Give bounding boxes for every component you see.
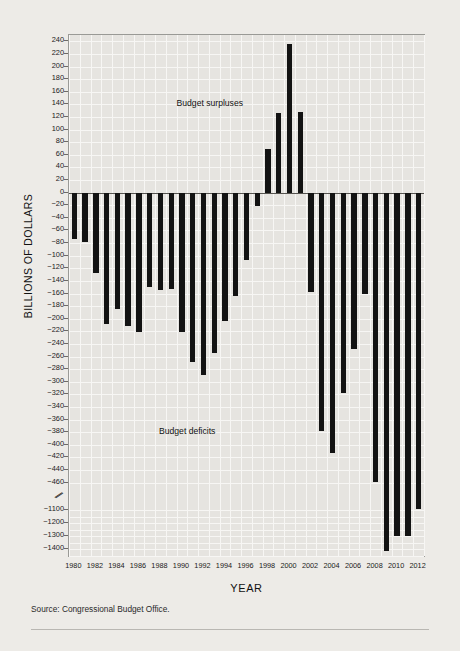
gridline-horizontal bbox=[69, 470, 424, 471]
x-tick-label: 1990 bbox=[173, 561, 189, 570]
x-tick-label: 2006 bbox=[345, 561, 361, 570]
y-tick-label: 100 bbox=[52, 125, 64, 133]
gridline-horizontal bbox=[69, 445, 424, 446]
x-tick-label: 1982 bbox=[87, 561, 103, 570]
y-tick-label: −180 bbox=[47, 301, 64, 309]
gridline-horizontal bbox=[69, 523, 424, 524]
gridline-vertical bbox=[241, 35, 242, 556]
y-tick-label: −260 bbox=[47, 352, 64, 360]
gridline-vertical bbox=[187, 35, 188, 556]
gridline-horizontal bbox=[69, 510, 424, 511]
bar-1990 bbox=[179, 193, 184, 332]
x-tick-label: 2002 bbox=[302, 561, 318, 570]
y-tick-label: −400 bbox=[47, 440, 64, 448]
budget-deficit-chart: 240220200180160140120100806040200−20−40−… bbox=[0, 0, 460, 651]
bar-2011 bbox=[405, 193, 410, 537]
bar-2000 bbox=[287, 44, 292, 193]
y-axis-title: BILLIONS OF DOLLARS bbox=[22, 146, 34, 366]
bar-1999 bbox=[276, 113, 281, 192]
gridline-vertical bbox=[101, 35, 102, 556]
x-tick-label: 1984 bbox=[108, 561, 124, 570]
gridline-horizontal bbox=[69, 306, 424, 307]
bar-1994 bbox=[222, 193, 227, 321]
y-tick-label: 160 bbox=[52, 87, 64, 95]
y-tick-label: −80 bbox=[51, 238, 64, 246]
gridline-horizontal bbox=[69, 394, 424, 395]
annotation-budget-deficits: Budget deficits bbox=[159, 426, 215, 436]
gridline-horizontal bbox=[69, 130, 424, 131]
bar-2009 bbox=[384, 193, 389, 552]
gridline-vertical bbox=[284, 35, 285, 556]
gridline-vertical bbox=[220, 35, 221, 556]
gridline-horizontal bbox=[69, 549, 424, 550]
gridline-horizontal bbox=[69, 117, 424, 118]
gridline-horizontal bbox=[69, 357, 424, 358]
bar-2001 bbox=[298, 112, 303, 193]
y-tick-label: −40 bbox=[51, 213, 64, 221]
gridline-vertical bbox=[230, 35, 231, 556]
y-tick-label: −280 bbox=[47, 364, 64, 372]
x-tick-label: 1996 bbox=[237, 561, 253, 570]
y-tick-label: 180 bbox=[52, 74, 64, 82]
gridline-horizontal bbox=[69, 142, 424, 143]
gridline-horizontal bbox=[69, 294, 424, 295]
y-tick-label: 120 bbox=[52, 112, 64, 120]
gridline-horizontal bbox=[69, 92, 424, 93]
y-tick-label: 40 bbox=[56, 162, 64, 170]
gridline-horizontal bbox=[69, 319, 424, 320]
gridline-horizontal bbox=[69, 155, 424, 156]
gridline-horizontal bbox=[69, 54, 424, 55]
y-tick-label: −140 bbox=[47, 276, 64, 284]
bar-2008 bbox=[373, 193, 378, 482]
gridline-horizontal bbox=[69, 556, 424, 557]
gridline-horizontal bbox=[69, 344, 424, 345]
gridline-horizontal bbox=[69, 457, 424, 458]
gridline-vertical bbox=[252, 35, 253, 556]
gridline-vertical bbox=[263, 35, 264, 556]
gridline-vertical bbox=[413, 35, 414, 556]
x-tick-label: 1998 bbox=[259, 561, 275, 570]
x-tick-label: 2008 bbox=[366, 561, 382, 570]
bar-1992 bbox=[201, 193, 206, 376]
bar-2006 bbox=[351, 193, 356, 349]
y-tick-label: −380 bbox=[47, 427, 64, 435]
bar-1997 bbox=[255, 193, 260, 207]
gridline-vertical bbox=[306, 35, 307, 556]
plot-area: Budget surpluses Budget deficits bbox=[68, 34, 425, 557]
y-tick-label: −60 bbox=[51, 225, 64, 233]
annotation-budget-surpluses: Budget surpluses bbox=[177, 98, 243, 108]
gridline-vertical bbox=[359, 35, 360, 556]
bar-2012 bbox=[416, 193, 421, 509]
y-tick-label: −340 bbox=[47, 402, 64, 410]
y-tick-label: −300 bbox=[47, 377, 64, 385]
bar-1998 bbox=[265, 149, 270, 193]
bar-1995 bbox=[233, 193, 238, 296]
bar-1982 bbox=[93, 193, 98, 274]
gridline-horizontal bbox=[69, 79, 424, 80]
bar-1980 bbox=[72, 193, 77, 240]
gridline-vertical bbox=[349, 35, 350, 556]
x-tick-label: 2012 bbox=[409, 561, 425, 570]
y-tick-label: −1100 bbox=[44, 505, 64, 513]
y-tick-label: −440 bbox=[47, 465, 64, 473]
gridline-horizontal bbox=[69, 281, 424, 282]
gridline-horizontal bbox=[69, 483, 424, 484]
gridline-vertical bbox=[177, 35, 178, 556]
bar-1993 bbox=[212, 193, 217, 354]
y-tick-label: 140 bbox=[52, 99, 64, 107]
page-background: 240220200180160140120100806040200−20−40−… bbox=[0, 0, 460, 651]
bar-1996 bbox=[244, 193, 249, 260]
gridline-horizontal bbox=[69, 543, 424, 544]
gridline-vertical bbox=[112, 35, 113, 556]
gridline-vertical bbox=[316, 35, 317, 556]
gridline-horizontal bbox=[69, 67, 424, 68]
gridline-vertical bbox=[273, 35, 274, 556]
y-tick-label: 60 bbox=[56, 150, 64, 158]
y-tick-label: 220 bbox=[52, 49, 64, 57]
y-tick-label: −120 bbox=[47, 263, 64, 271]
y-tick-label: 200 bbox=[52, 62, 64, 70]
bar-1991 bbox=[190, 193, 195, 363]
gridline-horizontal bbox=[69, 382, 424, 383]
y-tick-label: −220 bbox=[47, 326, 64, 334]
gridline-horizontal bbox=[69, 530, 424, 531]
